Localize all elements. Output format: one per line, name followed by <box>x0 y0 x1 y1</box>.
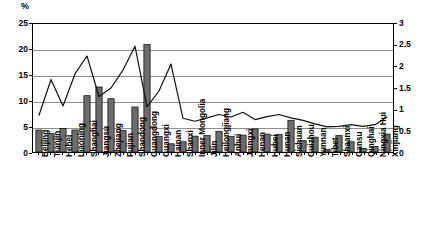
x-axis-label: Shanghai <box>90 120 99 157</box>
x-axis-label: Hebei <box>65 135 74 157</box>
y-tick-mark-right <box>394 45 397 46</box>
x-tick-mark <box>195 152 196 155</box>
x-axis-label: Sichuan <box>295 125 304 157</box>
x-tick-mark <box>207 152 208 155</box>
y-tick-label-left: 10 <box>2 96 28 106</box>
x-tick-mark <box>376 152 377 155</box>
x-axis-label: Shaanxi <box>343 126 352 157</box>
x-tick-mark <box>183 152 184 155</box>
y-tick-label-left: 25 <box>2 18 28 28</box>
x-tick-mark <box>304 152 305 155</box>
x-tick-mark <box>243 152 244 155</box>
x-axis-label: Xinjiang <box>391 125 400 157</box>
y-tick-mark-left <box>29 101 32 102</box>
x-axis-label: Gansu <box>355 132 364 157</box>
y-tick-label-right: 2 <box>399 61 425 71</box>
chart-root: % 0510152025 00.511.522.53 BeijingTianji… <box>0 0 440 225</box>
x-axis-label: Beijing <box>41 130 50 157</box>
x-tick-mark <box>255 152 256 155</box>
x-tick-mark <box>291 152 292 155</box>
x-axis-label: Tibet <box>331 138 340 157</box>
y-tick-label-right: 2.5 <box>399 39 425 49</box>
x-axis-label: Jiangsu <box>102 126 111 157</box>
y-tick-label-right: 1 <box>399 104 425 114</box>
x-axis-label: Jilin <box>210 141 219 157</box>
x-tick-mark <box>328 152 329 155</box>
x-axis-label: Guizhou <box>307 124 316 157</box>
x-tick-mark <box>171 152 172 155</box>
x-axis-label: Shandong <box>138 117 147 157</box>
plot-area <box>32 23 394 153</box>
x-axis-label: Hubei <box>271 134 280 157</box>
x-tick-mark <box>62 152 63 155</box>
y-tick-label-right: 3 <box>399 18 425 28</box>
y-tick-mark-right <box>394 23 397 24</box>
y-tick-label-left: 20 <box>2 44 28 54</box>
y-axis-unit-label: % <box>21 1 29 11</box>
y-tick-label-left: 5 <box>2 122 28 132</box>
x-tick-mark <box>388 152 389 155</box>
x-tick-mark <box>364 152 365 155</box>
x-tick-mark <box>340 152 341 155</box>
x-tick-mark <box>316 152 317 155</box>
series-layer <box>33 24 393 152</box>
x-axis-label: Qinghai <box>367 127 376 157</box>
x-axis-label: Hunan <box>283 132 292 157</box>
x-axis-label: Yunnan <box>319 127 328 157</box>
x-tick-mark <box>74 152 75 155</box>
x-tick-mark <box>352 152 353 155</box>
x-axis-label: Guangdong <box>150 111 159 157</box>
x-axis-label: Shanxi <box>186 130 195 157</box>
line-series <box>39 46 387 127</box>
y-tick-mark-left <box>29 127 32 128</box>
x-axis-label: Heilongjiang <box>222 108 231 157</box>
x-tick-mark <box>267 152 268 155</box>
x-tick-mark <box>98 152 99 155</box>
x-tick-mark <box>50 152 51 155</box>
x-tick-mark <box>147 152 148 155</box>
x-axis-label: Inner Mongolia <box>198 99 207 157</box>
y-tick-mark-left <box>29 23 32 24</box>
y-tick-mark-right <box>394 88 397 89</box>
x-axis-labels: BeijingTianjinHebeiLiaoningShanghaiJiang… <box>32 155 394 225</box>
y-tick-label-left: 15 <box>2 70 28 80</box>
x-tick-mark <box>110 152 111 155</box>
x-tick-mark <box>135 152 136 155</box>
x-axis-label: Ningxia Hui <box>379 112 388 157</box>
y-tick-mark-left <box>29 49 32 50</box>
x-axis-label: Jaingxi <box>246 129 255 157</box>
x-tick-mark <box>279 152 280 155</box>
x-tick-mark <box>159 152 160 155</box>
y-tick-label-right: 1.5 <box>399 83 425 93</box>
x-tick-mark <box>123 152 124 155</box>
y-tick-label-right: 0.5 <box>399 126 425 136</box>
x-axis-label: Liaoning <box>77 123 86 157</box>
x-axis-label: Henan <box>258 132 267 157</box>
y-tick-mark-right <box>394 110 397 111</box>
x-tick-mark <box>38 152 39 155</box>
y-tick-label-left: 0 <box>2 148 28 158</box>
y-tick-mark-left <box>29 153 32 154</box>
x-tick-mark <box>86 152 87 155</box>
x-axis-label: Anhui <box>234 134 243 157</box>
x-axis-label: Hainan <box>174 130 183 157</box>
x-axis-label: Guangxi <box>162 124 171 157</box>
x-axis-label: Zhejiang <box>114 123 123 157</box>
y-tick-label-right: 0 <box>399 148 425 158</box>
x-tick-mark <box>231 152 232 155</box>
x-axis-label: Fujian <box>126 133 135 157</box>
x-tick-mark <box>219 152 220 155</box>
y-tick-mark-left <box>29 75 32 76</box>
y-tick-mark-right <box>394 66 397 67</box>
x-axis-label: Tianjin <box>53 131 62 157</box>
